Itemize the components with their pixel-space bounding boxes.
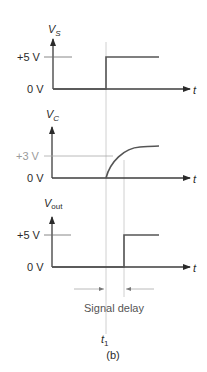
vs-zero-label: 0 V (27, 83, 44, 95)
signal-delay-diagram: VS t +5 V 0 V VC t +3 V 0 V Vout t +5 V … (0, 0, 207, 372)
plot-vout: Vout t +5 V 0 V (17, 197, 197, 274)
vc-time-label: t (193, 173, 197, 185)
vc-zero-label: 0 V (27, 172, 44, 184)
vout-high-label: +5 V (17, 229, 41, 241)
plot-vs: VS t +5 V 0 V (17, 23, 197, 96)
vs-waveform (53, 57, 159, 89)
vs-axis-label: VS (48, 23, 61, 38)
vs-time-label: t (193, 84, 197, 96)
vout-waveform (52, 235, 159, 267)
signal-delay-annotation: Signal delay (74, 289, 154, 314)
vout-axis-label: Vout (44, 197, 63, 211)
signal-delay-label: Signal delay (84, 302, 144, 314)
plot-vc: VC t +3 V 0 V (16, 108, 197, 185)
vs-high-label: +5 V (17, 51, 41, 63)
vc-waveform (106, 146, 159, 178)
t1-label: t1 (101, 333, 109, 348)
vc-threshold-label: +3 V (16, 150, 40, 162)
vout-zero-label: 0 V (27, 261, 44, 273)
vc-axis-label: VC (46, 108, 59, 123)
vout-time-label: t (193, 262, 197, 274)
figure-caption: (b) (106, 349, 119, 361)
